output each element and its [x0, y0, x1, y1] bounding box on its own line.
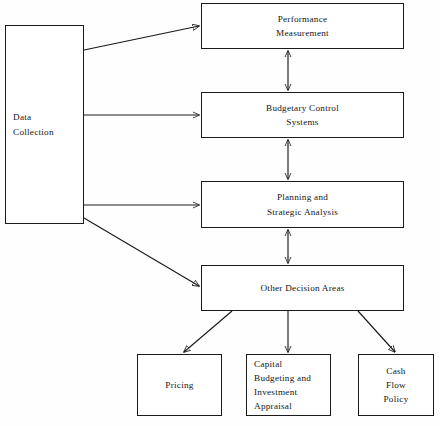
- node-data-collection[interactable]: Data Collection: [5, 25, 84, 224]
- node-budgetary-control-systems[interactable]: Budgetary Control Systems: [201, 92, 404, 138]
- edge-data-collection-to-other-decision-areas: [84, 218, 199, 286]
- node-other-decision-areas-label: Other Decision Areas: [257, 281, 347, 295]
- flowchart-diagram: Data Collection Performance Measurement …: [0, 0, 440, 426]
- node-performance-measurement[interactable]: Performance Measurement: [201, 3, 404, 49]
- node-budgetary-control-systems-label: Budgetary Control Systems: [263, 101, 342, 130]
- node-capital-budgeting-and-investment-appraisal-label: Capital Budgeting and Investment Apprais…: [247, 357, 314, 414]
- node-cash-flow-policy-label: Cash Flow Policy: [381, 364, 412, 407]
- node-cash-flow-policy[interactable]: Cash Flow Policy: [358, 354, 434, 416]
- node-performance-measurement-label: Performance Measurement: [273, 12, 332, 41]
- node-pricing-label: Pricing: [162, 378, 196, 392]
- node-pricing[interactable]: Pricing: [137, 354, 222, 416]
- node-other-decision-areas[interactable]: Other Decision Areas: [201, 265, 404, 311]
- edge-other-decision-areas-to-cash-flow-policy: [358, 311, 395, 352]
- node-planning-and-strategic-analysis[interactable]: Planning and Strategic Analysis: [201, 181, 404, 228]
- edge-data-collection-to-performance-measurement: [84, 26, 199, 50]
- node-data-collection-label: Data Collection: [6, 110, 57, 139]
- edge-other-decision-areas-to-pricing: [184, 311, 232, 352]
- node-capital-budgeting-and-investment-appraisal[interactable]: Capital Budgeting and Investment Apprais…: [246, 354, 331, 416]
- node-planning-and-strategic-analysis-label: Planning and Strategic Analysis: [264, 190, 341, 219]
